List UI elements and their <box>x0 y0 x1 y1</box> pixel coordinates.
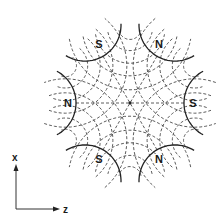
x-axis-arrow-icon <box>14 164 19 171</box>
field-line <box>49 29 113 113</box>
field-line <box>44 79 127 188</box>
field-line <box>108 32 152 51</box>
pole-label-s: S <box>95 153 102 165</box>
z-axis-label: z <box>63 204 68 215</box>
center-point <box>129 102 132 105</box>
field-line <box>160 39 207 101</box>
field-line <box>108 155 152 174</box>
field-line <box>133 18 216 127</box>
pole-label-n: N <box>155 38 163 50</box>
sextupole-diagram: NSNSNS x z <box>0 0 217 223</box>
field-line <box>49 93 113 177</box>
field-line <box>44 18 127 127</box>
pole-label-n: N <box>155 153 163 165</box>
pole-label-s: S <box>95 38 102 50</box>
field-line <box>133 79 216 188</box>
field-line <box>119 167 141 176</box>
field-line <box>53 105 100 167</box>
pole-label-n: N <box>64 97 72 109</box>
pole-label-s: S <box>189 97 196 109</box>
field-line <box>69 39 190 90</box>
field-line <box>53 39 100 101</box>
field-line <box>58 118 88 158</box>
axes: x z <box>12 152 68 215</box>
field-line <box>160 105 207 167</box>
field-line <box>119 30 141 39</box>
x-axis-label: x <box>12 152 18 163</box>
pole-labels: NSNSNS <box>64 38 197 165</box>
field-line <box>172 49 202 89</box>
field-line <box>69 116 190 167</box>
z-axis-arrow-icon <box>53 207 60 212</box>
